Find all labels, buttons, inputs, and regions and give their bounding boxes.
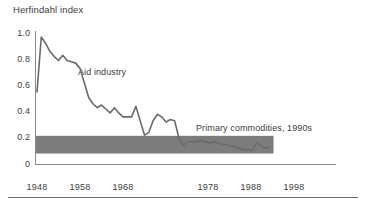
primary-commodities-band [36,136,274,154]
chart-figure: Herfindahl index 1.0 0.8 0.6 0.4 0.2 0 1… [0,0,366,209]
aid-industry-line [37,37,269,151]
bottom-divider-rule [8,197,358,198]
plot-area [0,0,366,209]
